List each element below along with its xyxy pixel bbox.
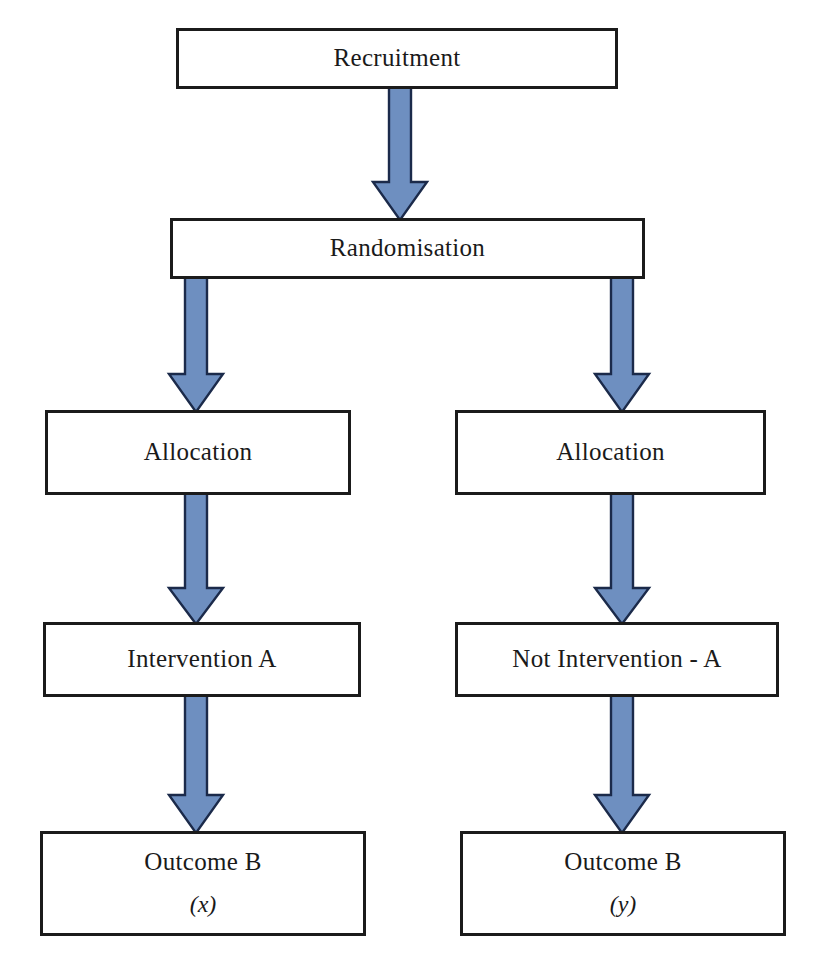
node-randomisation-label: Randomisation — [330, 234, 485, 263]
down-arrow-icon — [595, 695, 649, 833]
node-allocation-right-label: Allocation — [556, 438, 665, 467]
node-outcome-left-sublabel: (x) — [190, 891, 217, 919]
node-outcome-right[interactable]: Outcome B (y) — [460, 831, 786, 936]
node-allocation-left[interactable]: Allocation — [45, 410, 351, 495]
node-intervention-a-label: Intervention A — [127, 645, 276, 674]
node-recruitment-label: Recruitment — [334, 44, 461, 73]
edge-allocation-right-intervention — [592, 493, 652, 626]
down-arrow-icon — [595, 276, 649, 412]
node-not-intervention-a-label: Not Intervention - A — [512, 645, 721, 674]
node-allocation-left-label: Allocation — [144, 438, 253, 467]
node-not-intervention-a[interactable]: Not Intervention - A — [455, 622, 779, 697]
down-arrow-icon — [169, 695, 223, 833]
node-randomisation[interactable]: Randomisation — [170, 218, 645, 279]
edge-intervention-outcome-left — [166, 695, 226, 835]
node-allocation-right[interactable]: Allocation — [455, 410, 766, 495]
down-arrow-icon — [373, 86, 427, 220]
node-intervention-a[interactable]: Intervention A — [43, 622, 361, 697]
node-outcome-right-sublabel: (y) — [610, 891, 637, 919]
node-recruitment[interactable]: Recruitment — [176, 28, 618, 89]
node-outcome-right-label: Outcome B — [564, 848, 681, 877]
edge-intervention-outcome-right — [592, 695, 652, 835]
edge-randomisation-allocation-left — [166, 276, 226, 414]
edge-allocation-left-intervention — [166, 493, 226, 626]
edge-randomisation-allocation-right — [592, 276, 652, 414]
down-arrow-icon — [169, 493, 223, 624]
node-outcome-left-label: Outcome B — [144, 848, 261, 877]
down-arrow-icon — [595, 493, 649, 624]
down-arrow-icon — [169, 276, 223, 412]
flowchart-canvas: Recruitment Randomisation Allocation All… — [0, 0, 823, 966]
edge-recruitment-randomisation — [370, 86, 430, 222]
node-outcome-left[interactable]: Outcome B (x) — [40, 831, 366, 936]
